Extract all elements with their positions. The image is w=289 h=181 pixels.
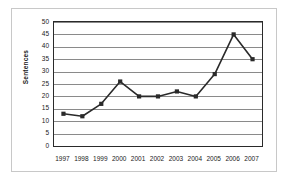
data-point-marker — [156, 94, 160, 98]
data-point-marker — [194, 94, 198, 98]
y-axis-tick-label: 35 — [23, 55, 49, 62]
series-svg — [54, 22, 262, 146]
y-axis-tick-label: 30 — [23, 67, 49, 74]
y-axis-tick-label: 45 — [23, 30, 49, 37]
series-line — [63, 34, 252, 116]
y-axis-tick-label: 15 — [23, 104, 49, 111]
y-axis-tick-label: 0 — [23, 142, 49, 149]
data-point-marker — [80, 114, 84, 118]
y-axis-tick-label: 20 — [23, 92, 49, 99]
y-axis-tick-label: 10 — [23, 117, 49, 124]
chart-figure: Sentences 05101520253035404550 199719981… — [11, 8, 277, 172]
y-axis-tick-label: 40 — [23, 42, 49, 49]
data-point-marker — [250, 57, 254, 61]
plot-area — [53, 21, 263, 147]
data-point-marker — [213, 72, 217, 76]
data-point-marker — [61, 112, 65, 116]
data-point-marker — [99, 102, 103, 106]
data-point-marker — [175, 89, 179, 93]
y-axis-tick-label: 25 — [23, 80, 49, 87]
y-axis-tick-label: 5 — [23, 129, 49, 136]
x-axis-tick-labels: 1997199819992000200120022003200420052006… — [53, 155, 263, 167]
data-point-marker — [118, 79, 122, 83]
data-point-marker — [232, 32, 236, 36]
x-axis-tick-label: 2007 — [232, 155, 272, 163]
y-axis-tick-label: 50 — [23, 18, 49, 25]
data-point-marker — [137, 94, 141, 98]
